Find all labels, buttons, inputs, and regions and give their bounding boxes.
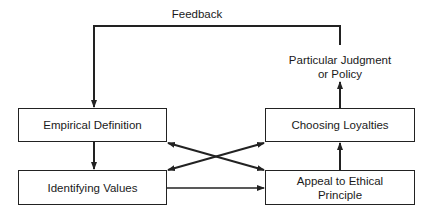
box-appeal-to-ethical-principle-label: Appeal to Ethical Principle — [297, 174, 383, 202]
box-appeal-to-ethical-principle: Appeal to Ethical Principle — [265, 170, 415, 205]
output-label-particular-judgment: Particular Judgment or Policy — [280, 53, 400, 81]
box-choosing-loyalties: Choosing Loyalties — [265, 108, 415, 142]
box-identifying-values-label: Identifying Values — [48, 181, 138, 195]
box-empirical-definition: Empirical Definition — [18, 108, 167, 142]
box-empirical-definition-label: Empirical Definition — [43, 118, 141, 132]
box-choosing-loyalties-label: Choosing Loyalties — [291, 118, 388, 132]
box-identifying-values: Identifying Values — [18, 170, 167, 205]
feedback-label: Feedback — [147, 7, 247, 21]
